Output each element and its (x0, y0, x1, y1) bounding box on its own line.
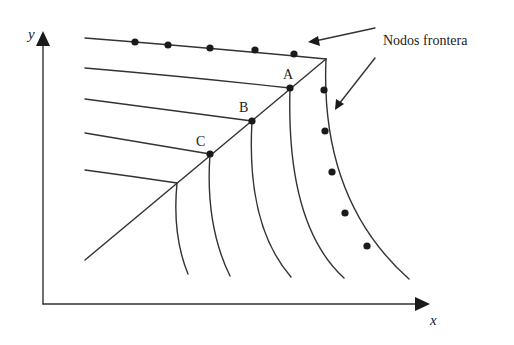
top-boundary-node (290, 50, 297, 57)
point-c-label: C (196, 134, 205, 150)
mesh-line-b (85, 99, 252, 121)
top-boundary-line (85, 38, 326, 59)
y-axis-label: y (28, 26, 35, 43)
top-boundary-node (206, 44, 213, 51)
top-boundary-node (164, 41, 171, 48)
mesh-line-c (85, 133, 210, 154)
right-boundary-node (341, 209, 348, 216)
x-axis-arrowhead-icon (415, 297, 430, 311)
boundary-nodes-callout-label: Nodos frontera (383, 33, 467, 49)
callout-arrowhead-top-icon (308, 36, 320, 46)
node-b (248, 117, 255, 124)
right-boundary-node (328, 168, 335, 175)
node-c (206, 150, 213, 157)
mesh-curve-d (176, 183, 188, 274)
mesh-line-d (85, 170, 177, 183)
right-boundary-node (321, 127, 328, 134)
top-boundary-node (131, 38, 138, 45)
right-boundary-node (363, 242, 370, 249)
mesh-curve-a (290, 88, 344, 278)
top-boundary-node (251, 46, 258, 53)
callout-arrow-top-line (315, 28, 375, 41)
mesh-line-a (85, 68, 290, 88)
mesh-diagram (0, 0, 514, 345)
y-axis-arrowhead-icon (36, 31, 50, 46)
point-a-label: A (283, 67, 293, 83)
callout-arrow-right-line (339, 58, 375, 104)
point-b-label: B (239, 100, 248, 116)
node-a (286, 84, 293, 91)
mesh-curve-b (251, 121, 291, 277)
mesh-curve-c (209, 154, 230, 276)
right-boundary-node (320, 86, 327, 93)
x-axis-label: x (430, 312, 437, 329)
callout-arrowhead-right-icon (335, 99, 344, 110)
